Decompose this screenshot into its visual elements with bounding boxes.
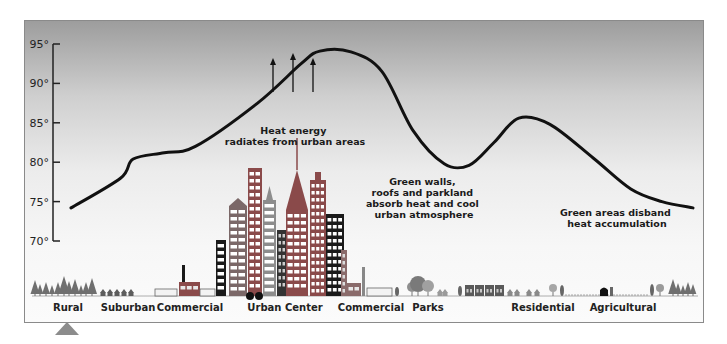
house-roof <box>437 289 443 293</box>
house-icon <box>108 293 113 297</box>
apartment-block <box>475 285 484 296</box>
building-window <box>279 269 282 273</box>
building-window <box>283 248 286 252</box>
urban-heat-island-diagram: 95°90°85°80°75°70° Heat energy radiates … <box>0 0 727 344</box>
tree-icon <box>49 285 55 294</box>
building-window <box>256 277 261 281</box>
house-icon <box>129 293 134 297</box>
house-icon <box>527 293 532 297</box>
building-window <box>294 235 299 239</box>
zone-labels: RuralSuburbanCommercialUrban CenterComme… <box>53 302 656 313</box>
building-window <box>250 263 255 267</box>
building-window <box>301 284 306 288</box>
building-window <box>265 274 275 278</box>
annotation-disband-line: heat accumulation <box>567 218 667 229</box>
building-window <box>343 289 346 293</box>
building-window <box>239 245 246 249</box>
building-window <box>312 247 315 251</box>
building-window <box>316 261 319 265</box>
building-window <box>218 244 225 248</box>
building-window <box>328 274 332 278</box>
building-window <box>239 287 246 291</box>
building-window <box>218 279 225 283</box>
building-window <box>231 217 238 221</box>
house-roof <box>128 289 134 293</box>
building-window <box>338 239 342 243</box>
y-tick-label: 70° <box>30 235 50 248</box>
building-window <box>265 246 275 250</box>
building-window <box>301 242 306 246</box>
building-window <box>193 286 198 290</box>
house-icon <box>438 293 443 297</box>
building-window <box>256 249 261 253</box>
building-window <box>349 287 354 291</box>
heat-arrow-head <box>270 58 276 65</box>
building-window <box>355 287 360 291</box>
building-window <box>256 263 261 267</box>
building-window <box>343 254 346 258</box>
building-window <box>239 217 246 221</box>
building-window <box>294 270 299 274</box>
building-window <box>288 277 293 281</box>
building-window <box>301 249 306 253</box>
cypress-tree-icon <box>458 286 462 296</box>
building-window <box>316 212 319 216</box>
building-window <box>288 284 293 288</box>
heat-arrow-head <box>310 58 316 65</box>
building-window <box>265 281 275 285</box>
building-window <box>321 219 324 223</box>
tower-spire <box>266 186 273 200</box>
y-tick-label: 95° <box>30 38 50 51</box>
building-window <box>328 218 332 222</box>
building-window <box>321 289 324 293</box>
building-window <box>321 233 324 237</box>
house-icon <box>122 293 127 297</box>
house-roof <box>107 289 113 293</box>
house-icon <box>115 293 120 297</box>
building-window <box>279 255 282 259</box>
house-icon <box>508 293 513 297</box>
building-window <box>312 261 315 265</box>
building-window <box>316 191 319 195</box>
building-window <box>333 260 337 264</box>
building-window <box>333 288 337 292</box>
building-window <box>487 289 489 293</box>
building-window <box>316 254 319 258</box>
building-window <box>338 218 342 222</box>
building-window <box>288 256 293 260</box>
building-window <box>279 248 282 252</box>
building-window <box>312 268 315 272</box>
building-window <box>256 256 261 260</box>
building-window <box>321 226 324 230</box>
building-window <box>321 205 324 209</box>
building-window <box>279 276 282 280</box>
zone-label: Rural <box>53 302 83 313</box>
building-window <box>328 260 332 264</box>
building-window <box>294 284 299 288</box>
building-window <box>333 253 337 257</box>
building-window <box>256 179 261 183</box>
building-window <box>283 255 286 259</box>
building-window <box>294 228 299 232</box>
building-window <box>250 256 255 260</box>
building-window <box>312 275 315 279</box>
building-window <box>250 284 255 288</box>
round-tree-icon <box>656 284 664 292</box>
building-window <box>265 288 275 292</box>
building-window <box>250 186 255 190</box>
building-window <box>250 270 255 274</box>
y-tick-label: 85° <box>30 117 50 130</box>
house-icon <box>515 293 520 297</box>
building-window <box>288 228 293 232</box>
warehouse <box>367 288 392 296</box>
building-window <box>301 228 306 232</box>
temperature-curve <box>71 49 693 207</box>
annotation-heat-line: Heat energy <box>260 125 327 136</box>
zone-label: Residential <box>511 302 574 313</box>
building-window <box>321 212 324 216</box>
building-window <box>321 247 324 251</box>
building-window <box>321 282 324 286</box>
building-window <box>265 267 275 271</box>
apartment-block <box>465 285 474 296</box>
tree-icon <box>70 279 80 294</box>
